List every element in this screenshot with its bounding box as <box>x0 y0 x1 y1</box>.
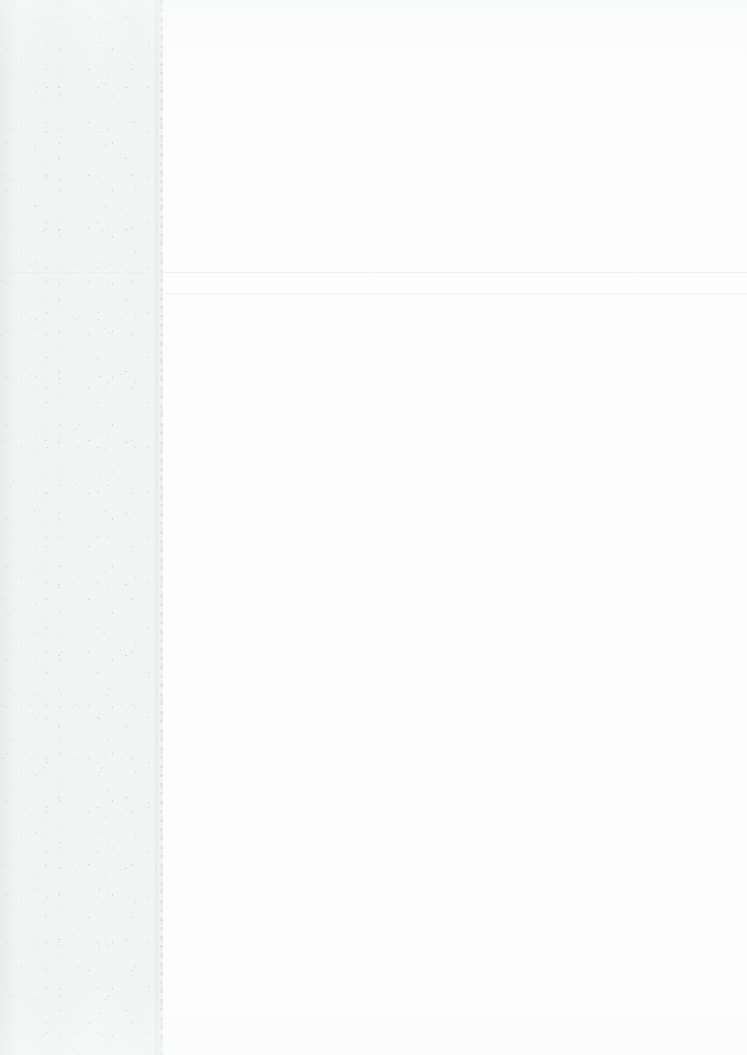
scanned-page: · ······ ·· · ·· ·· ···· · ·· · ·· · ·· … <box>0 0 747 1055</box>
scan-wash-overlay <box>0 0 747 1055</box>
